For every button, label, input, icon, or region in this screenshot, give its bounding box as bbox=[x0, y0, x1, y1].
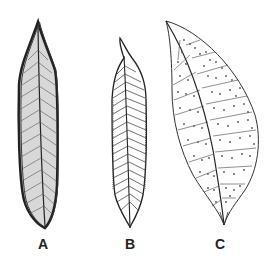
label-c: C bbox=[210, 236, 230, 252]
leaf-a-drawing bbox=[19, 22, 59, 228]
leaf-c-drawing bbox=[166, 21, 258, 225]
leaf-drawings bbox=[0, 0, 276, 269]
leaf-figure: A B C bbox=[0, 0, 276, 269]
label-a: A bbox=[33, 236, 53, 252]
leaf-b-drawing bbox=[112, 38, 146, 228]
label-b: B bbox=[120, 236, 140, 252]
